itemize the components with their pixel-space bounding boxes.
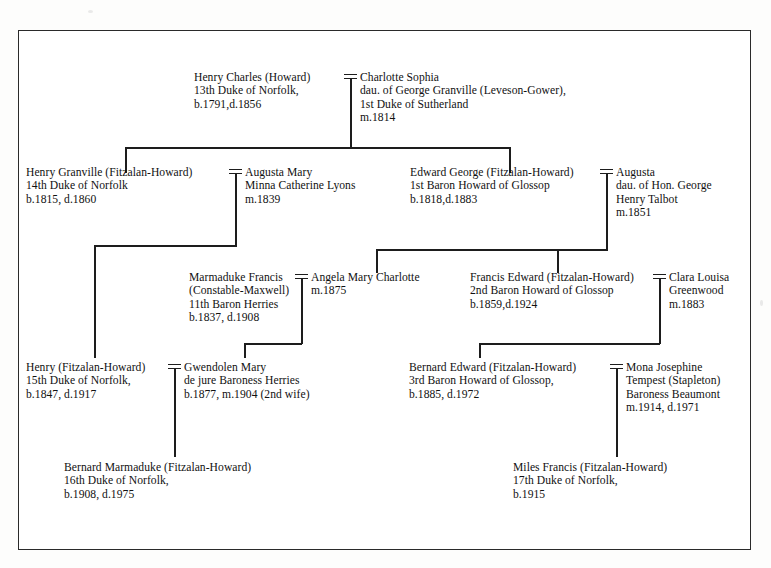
person-francis-edward: Francis Edward (Fitzalan-Howard) 2nd Bar… bbox=[470, 271, 634, 311]
connector-francis-edward-drop bbox=[659, 279, 661, 344]
person-detail: Henry Talbot bbox=[616, 193, 712, 206]
person-bernard-edward: Bernard Edward (Fitzalan-Howard) 3rd Bar… bbox=[409, 361, 576, 401]
person-name: Bernard Edward (Fitzalan-Howard) bbox=[409, 361, 576, 374]
person-charlotte-sophia: Charlotte Sophia dau. of George Granvill… bbox=[360, 71, 566, 125]
person-henry-15th-duke: Henry (Fitzalan-Howard) 15th Duke of Nor… bbox=[26, 361, 145, 401]
connector-henry-granville-drop bbox=[235, 174, 237, 246]
person-name: Edward George (Fitzalan-Howard) bbox=[410, 166, 574, 179]
person-detail: de jure Baroness Herries bbox=[184, 374, 310, 387]
connector-to-angela-mary bbox=[376, 249, 378, 273]
person-augusta-talbot: Augusta dau. of Hon. George Henry Talbot… bbox=[616, 166, 712, 220]
person-dates: b.1915 bbox=[513, 488, 667, 501]
connector-to-bernard-edward bbox=[479, 343, 481, 358]
person-dates: b.1859,d.1924 bbox=[470, 298, 634, 311]
person-name: Mona Josephine bbox=[626, 361, 720, 374]
family-tree-page: Henry Charles (Howard) 13th Duke of Norf… bbox=[0, 0, 771, 568]
connector-marmaduke-drop bbox=[301, 279, 303, 344]
connector-marmaduke-bus bbox=[244, 343, 302, 345]
person-name: Augusta Mary bbox=[245, 166, 356, 179]
scan-speck bbox=[760, 300, 763, 306]
person-detail: 1st Baron Howard of Glossop bbox=[410, 179, 574, 192]
connector-to-henry-15th bbox=[94, 245, 96, 358]
diagram-frame: Henry Charles (Howard) 13th Duke of Norf… bbox=[18, 30, 751, 550]
person-clara-louisa: Clara Louisa Greenwood m.1883 bbox=[669, 271, 729, 311]
person-detail: Baroness Beaumont bbox=[626, 388, 720, 401]
person-detail: 11th Baron Herries bbox=[189, 298, 289, 311]
person-name: Henry (Fitzalan-Howard) bbox=[26, 361, 145, 374]
person-name: Francis Edward (Fitzalan-Howard) bbox=[470, 271, 634, 284]
person-detail: (Constable-Maxwell) bbox=[189, 284, 289, 297]
connector-edward-george-bus bbox=[376, 249, 608, 251]
person-marriage: m.1851 bbox=[616, 206, 712, 219]
person-detail: 15th Duke of Norfolk, bbox=[26, 374, 145, 387]
person-dates: b.1815, d.1860 bbox=[26, 193, 192, 206]
connector-bernard-edward-drop bbox=[616, 369, 618, 457]
person-dates: b.1847, d.1917 bbox=[26, 388, 145, 401]
person-dates: b.1791,d.1856 bbox=[194, 98, 310, 111]
person-name: Angela Mary Charlotte bbox=[311, 271, 420, 284]
person-marriage: m.1839 bbox=[245, 193, 356, 206]
person-edward-george: Edward George (Fitzalan-Howard) 1st Baro… bbox=[410, 166, 574, 206]
person-gwendolen-mary: Gwendolen Mary de jure Baroness Herries … bbox=[184, 361, 310, 401]
person-dates: b.1837, d.1908 bbox=[189, 311, 289, 324]
person-marriage: b.1877, m.1904 (2nd wife) bbox=[184, 388, 310, 401]
person-marriage: m.1883 bbox=[669, 298, 729, 311]
person-detail: 13th Duke of Norfolk, bbox=[194, 84, 310, 97]
person-name: Bernard Marmaduke (Fitzalan-Howard) bbox=[64, 461, 251, 474]
person-detail: dau. of George Granville (Leveson-Gower)… bbox=[360, 84, 566, 97]
person-name: Marmaduke Francis bbox=[189, 271, 289, 284]
person-name: Henry Granville (Fitzalan-Howard) bbox=[26, 166, 192, 179]
connector-francis-edward-bus bbox=[479, 343, 660, 345]
person-detail: Minna Catherine Lyons bbox=[245, 179, 356, 192]
person-dates: b.1818,d.1883 bbox=[410, 193, 574, 206]
person-marmaduke-francis: Marmaduke Francis (Constable-Maxwell) 11… bbox=[189, 271, 289, 325]
person-henry-granville: Henry Granville (Fitzalan-Howard) 14th D… bbox=[26, 166, 192, 206]
person-bernard-marmaduke-16th-duke: Bernard Marmaduke (Fitzalan-Howard) 16th… bbox=[64, 461, 251, 501]
connector-to-gwendolen bbox=[244, 343, 246, 358]
person-angela-mary-charlotte: Angela Mary Charlotte m.1875 bbox=[311, 271, 420, 298]
scan-speck bbox=[88, 10, 93, 13]
person-detail: Greenwood bbox=[669, 284, 729, 297]
person-detail: 1st Duke of Sutherland bbox=[360, 98, 566, 111]
person-dates: b.1908, d.1975 bbox=[64, 488, 251, 501]
connector-henry-15th-drop bbox=[174, 369, 176, 457]
person-mona-josephine: Mona Josephine Tempest (Stapleton) Baron… bbox=[626, 361, 720, 415]
person-name: Gwendolen Mary bbox=[184, 361, 310, 374]
connector-to-francis-edward bbox=[557, 249, 559, 273]
person-name: Miles Francis (Fitzalan-Howard) bbox=[513, 461, 667, 474]
person-name: Henry Charles (Howard) bbox=[194, 71, 310, 84]
person-name: Clara Louisa bbox=[669, 271, 729, 284]
person-detail: 14th Duke of Norfolk bbox=[26, 179, 192, 192]
person-dates: b.1885, d.1972 bbox=[409, 388, 576, 401]
person-marriage: m.1914, d.1971 bbox=[626, 401, 720, 414]
person-miles-francis-17th-duke: Miles Francis (Fitzalan-Howard) 17th Duk… bbox=[513, 461, 667, 501]
person-henry-charles-howard: Henry Charles (Howard) 13th Duke of Norf… bbox=[194, 71, 310, 111]
person-detail: dau. of Hon. George bbox=[616, 179, 712, 192]
person-detail: Tempest (Stapleton) bbox=[626, 374, 720, 387]
person-detail: 2nd Baron Howard of Glossop bbox=[470, 284, 634, 297]
person-detail: 3rd Baron Howard of Glossop, bbox=[409, 374, 576, 387]
person-name: Charlotte Sophia bbox=[360, 71, 566, 84]
person-name: Augusta bbox=[616, 166, 712, 179]
person-augusta-mary: Augusta Mary Minna Catherine Lyons m.183… bbox=[245, 166, 356, 206]
person-detail: 16th Duke of Norfolk, bbox=[64, 474, 251, 487]
person-detail: 17th Duke of Norfolk, bbox=[513, 474, 667, 487]
connector-edward-george-drop bbox=[606, 174, 608, 250]
person-marriage: m.1814 bbox=[360, 111, 566, 124]
connector-henry-granville-bus bbox=[94, 245, 237, 247]
person-marriage: m.1875 bbox=[311, 284, 420, 297]
connector-g1-bus bbox=[125, 147, 511, 149]
connector-g1-drop bbox=[350, 79, 352, 148]
